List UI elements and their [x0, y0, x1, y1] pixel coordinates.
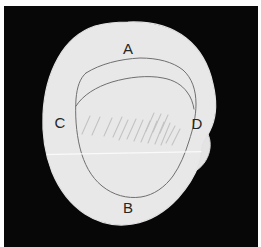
region-label-a: A — [123, 40, 133, 57]
region-label-b: B — [123, 199, 133, 216]
region-label-d: D — [192, 115, 203, 132]
diagram-canvas: ABCD — [0, 0, 261, 247]
region-label-c: C — [55, 114, 66, 131]
figure-container: ABCD — [0, 0, 261, 247]
